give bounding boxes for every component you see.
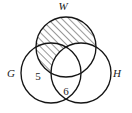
venn-diagram-canvas: W G H 5 6 bbox=[0, 0, 132, 113]
set-label-h: H bbox=[112, 67, 122, 79]
region-count-g-only: 5 bbox=[35, 70, 41, 82]
set-label-g: G bbox=[7, 67, 15, 79]
set-label-w: W bbox=[58, 0, 68, 12]
region-count-g-h: 6 bbox=[63, 85, 69, 97]
venn-diagram-figure: W G H 5 6 bbox=[0, 0, 132, 113]
